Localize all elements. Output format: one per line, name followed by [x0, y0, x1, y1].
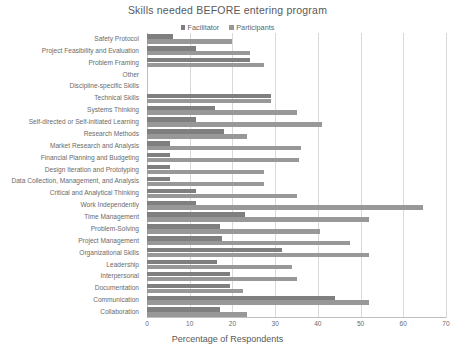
bar-facilitator — [147, 94, 271, 98]
gridline-70 — [446, 33, 447, 318]
bar-participants — [147, 122, 322, 126]
bar-group — [147, 116, 446, 128]
bar-participants — [147, 312, 247, 316]
bar-participants — [147, 241, 350, 245]
bar-participants — [147, 205, 423, 209]
legend-item-facilitator[interactable]: Facilitator — [181, 23, 220, 32]
bar-group — [147, 140, 446, 152]
category-label: Documentation — [95, 284, 139, 292]
bar-group — [147, 152, 446, 164]
bar-participants — [147, 194, 297, 198]
bar-group — [147, 92, 446, 104]
category-label: Work Independently — [80, 201, 139, 209]
bar-facilitator — [147, 236, 222, 240]
bar-group — [147, 211, 446, 223]
legend-swatch-participants — [229, 25, 234, 30]
bar-group — [147, 199, 446, 211]
category-label: Data Collection, Management, and Analysi… — [11, 177, 139, 185]
bar-participants — [147, 134, 247, 138]
bar-group — [147, 247, 446, 259]
bar-facilitator — [147, 201, 196, 205]
bar-participants — [147, 51, 250, 55]
bar-group — [147, 223, 446, 235]
category-label: Time Management — [84, 213, 139, 221]
chart-title: Skills needed BEFORE entering program — [0, 4, 455, 16]
bar-group — [147, 164, 446, 176]
bar-chart: Skills needed BEFORE entering program Fa… — [0, 0, 455, 358]
bar-group — [147, 57, 446, 69]
bar-participants — [147, 170, 264, 174]
x-axis-title: Percentage of Respondents — [0, 334, 455, 344]
x-tick-50: 50 — [357, 320, 364, 327]
legend-item-participants[interactable]: Participants — [229, 23, 274, 32]
bar-facilitator — [147, 224, 220, 228]
bar-facilitator — [147, 117, 196, 121]
bar-facilitator — [147, 141, 170, 145]
bar-facilitator — [147, 189, 196, 193]
bar-participants — [147, 99, 271, 103]
x-tick-30: 30 — [271, 320, 278, 327]
bar-participants — [147, 229, 320, 233]
legend-swatch-facilitator — [181, 25, 186, 30]
bar-participants — [147, 146, 301, 150]
bar-participants — [147, 158, 299, 162]
bar-participants — [147, 289, 243, 293]
category-label: Communication — [93, 296, 139, 304]
bar-participants — [147, 182, 264, 186]
bar-group — [147, 45, 446, 57]
category-label: Collaboration — [100, 308, 139, 316]
legend-label-facilitator: Facilitator — [188, 23, 220, 32]
bar-group — [147, 176, 446, 188]
bar-facilitator — [147, 153, 170, 157]
category-axis-labels: Safety ProtocolProject Feasibility and E… — [0, 33, 143, 318]
bar-facilitator — [147, 307, 220, 311]
x-tick-20: 20 — [229, 320, 236, 327]
bar-facilitator — [147, 260, 217, 264]
bar-participants — [147, 63, 264, 67]
bar-facilitator — [147, 58, 250, 62]
bar-group — [147, 81, 446, 93]
bar-rows — [147, 33, 446, 318]
bar-participants — [147, 39, 232, 43]
bar-participants — [147, 253, 369, 257]
x-tick-60: 60 — [400, 320, 407, 327]
bar-participants — [147, 277, 297, 281]
plot-area — [147, 33, 446, 318]
category-label: Problem Framing — [88, 59, 139, 67]
bar-facilitator — [147, 129, 224, 133]
category-label: Project Feasibility and Evaluation — [42, 47, 139, 55]
category-label: Research Methods — [84, 130, 139, 138]
x-tick-70: 70 — [442, 320, 449, 327]
bar-facilitator — [147, 248, 282, 252]
bar-facilitator — [147, 272, 230, 276]
category-label: Problem-Solving — [91, 225, 139, 233]
bar-group — [147, 235, 446, 247]
bar-facilitator — [147, 34, 173, 38]
category-label: Safety Protocol — [94, 35, 139, 43]
bar-facilitator — [147, 212, 245, 216]
bar-group — [147, 128, 446, 140]
x-tick-10: 10 — [186, 320, 193, 327]
bar-group — [147, 104, 446, 116]
bar-facilitator — [147, 284, 230, 288]
bar-facilitator — [147, 106, 215, 110]
category-label: Financial Planning and Budgeting — [41, 154, 139, 162]
bar-participants — [147, 110, 297, 114]
category-label: Systems Thinking — [87, 106, 139, 114]
category-label: Other — [123, 71, 140, 79]
bar-group — [147, 33, 446, 45]
category-label: Interpersonal — [101, 272, 140, 280]
category-label: Self-directed or Self-initiated Learning — [29, 118, 139, 126]
bar-facilitator — [147, 46, 196, 50]
category-label: Technical Skills — [94, 94, 139, 102]
bar-group — [147, 282, 446, 294]
x-tick-0: 0 — [145, 320, 149, 327]
bar-facilitator — [147, 296, 335, 300]
legend-label-participants: Participants — [236, 23, 274, 32]
bar-participants — [147, 217, 369, 221]
x-tick-40: 40 — [314, 320, 321, 327]
x-axis-line — [147, 317, 446, 318]
category-label: Market Research and Analysis — [50, 142, 139, 150]
category-label: Critical and Analytical Thinking — [50, 189, 139, 197]
bar-facilitator — [147, 177, 170, 181]
